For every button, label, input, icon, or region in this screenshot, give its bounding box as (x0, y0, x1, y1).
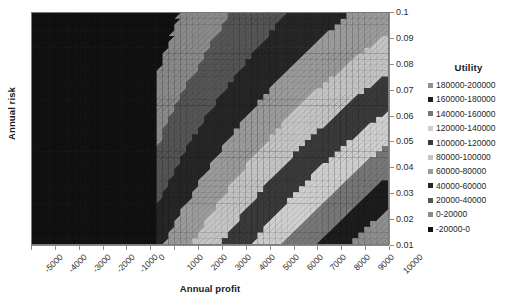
legend-item-label: 60000-80000 (436, 167, 486, 176)
y-axis-tick (390, 167, 394, 168)
legend-item-label: 160000-180000 (436, 95, 496, 104)
legend-item-label: -20000-0 (436, 225, 470, 234)
legend-item-label: 140000-160000 (436, 110, 496, 119)
y-axis-tick (390, 245, 394, 246)
legend-item-label: 0-20000 (436, 210, 467, 219)
x-axis-tick-label: 9000 (376, 252, 396, 272)
legend-item[interactable]: 60000-80000 (428, 164, 507, 178)
legend-swatch-icon (428, 111, 433, 116)
y-axis-tick (390, 90, 394, 91)
x-axis-tick-label: 10000 (401, 252, 425, 276)
legend-title: Utility (430, 62, 507, 73)
y-axis-tick-label: 0.06 (396, 111, 414, 121)
x-axis-tick-label: 5000 (280, 252, 300, 272)
plot-area (31, 12, 389, 245)
y-axis-tick-label: 0.01 (396, 240, 414, 250)
y-axis-tick-label: 0.09 (396, 33, 414, 43)
y-axis-tick (390, 12, 394, 13)
y-axis-tick-label: 0.03 (396, 188, 414, 198)
legend-item-label: 180000-200000 (436, 81, 496, 90)
y-axis-tick (390, 116, 394, 117)
x-axis-tick-label: 0 (157, 252, 167, 262)
legend-item-label: 100000-120000 (436, 139, 496, 148)
x-axis-tick-labels: -5000-4000-3000-2000-1000010002000300040… (0, 250, 507, 284)
legend-swatch-icon (428, 169, 433, 174)
legend-item[interactable]: 20000-40000 (428, 193, 507, 207)
legend-swatch-icon (428, 198, 433, 203)
legend-swatch-icon (428, 155, 433, 160)
y-axis-tick-label: 0.05 (396, 136, 414, 146)
legend: Utility 180000-200000160000-180000140000… (428, 62, 507, 236)
y-axis-tick-label: 0.07 (396, 85, 414, 95)
x-axis-tick-label: -5000 (42, 252, 64, 274)
legend-swatch-icon (428, 140, 433, 145)
legend-item[interactable]: 0-20000 (428, 208, 507, 222)
x-axis-tick-label: -3000 (90, 252, 112, 274)
x-axis-tick-label: 6000 (304, 252, 324, 272)
legend-item-label: 80000-100000 (436, 153, 491, 162)
x-axis-title: Annual profit (31, 283, 389, 294)
legend-item[interactable]: -20000-0 (428, 222, 507, 236)
y-axis-tick (390, 64, 394, 65)
y-axis-tick (390, 193, 394, 194)
legend-item[interactable]: 100000-120000 (428, 136, 507, 150)
y-axis-tick (390, 141, 394, 142)
legend-item[interactable]: 80000-100000 (428, 150, 507, 164)
x-axis (31, 245, 389, 246)
y-axis-title: Annual risk (6, 69, 17, 159)
legend-swatch-icon (428, 183, 433, 188)
legend-items: 180000-200000160000-180000140000-1600001… (428, 78, 507, 236)
legend-item[interactable]: 160000-180000 (428, 92, 507, 106)
y-axis-tick (390, 38, 394, 39)
legend-swatch-icon (428, 227, 433, 232)
legend-item[interactable]: 180000-200000 (428, 78, 507, 92)
y-axis: 0.10.090.080.070.060.050.040.030.020.01 (389, 12, 390, 245)
legend-swatch-icon (428, 212, 433, 217)
legend-item[interactable]: 140000-160000 (428, 107, 507, 121)
legend-item-label: 20000-40000 (436, 196, 486, 205)
x-axis-tick-label: 2000 (209, 252, 229, 272)
legend-item[interactable]: 120000-140000 (428, 121, 507, 135)
legend-item[interactable]: 40000-60000 (428, 179, 507, 193)
legend-swatch-icon (428, 83, 433, 88)
y-axis-tick-label: 0.1 (396, 7, 409, 17)
y-axis-tick-label: 0.08 (396, 59, 414, 69)
legend-swatch-icon (428, 126, 433, 131)
x-axis-tick-label: 7000 (328, 252, 348, 272)
legend-swatch-icon (428, 97, 433, 102)
x-axis-tick-label: 4000 (256, 252, 276, 272)
x-axis-tick-label: 1000 (185, 252, 205, 272)
x-axis-tick-label: 8000 (352, 252, 372, 272)
surface-chart: Annual risk 0.10.090.080.070.060.050.040… (0, 0, 507, 301)
y-axis-tick (390, 219, 394, 220)
surface-plot-canvas (32, 13, 388, 244)
legend-item-label: 40000-60000 (436, 182, 486, 191)
y-axis-tick-label: 0.04 (396, 162, 414, 172)
x-axis-tick-label: -4000 (66, 252, 88, 274)
y-axis-tick-label: 0.02 (396, 214, 414, 224)
legend-item-label: 120000-140000 (436, 124, 496, 133)
x-axis-tick-label: -2000 (114, 252, 136, 274)
x-axis-tick-label: 3000 (232, 252, 252, 272)
